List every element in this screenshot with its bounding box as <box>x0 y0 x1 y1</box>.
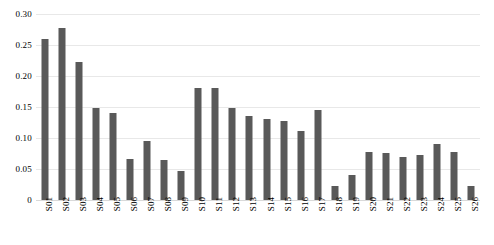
x-tick-slot: S13 <box>241 200 258 245</box>
x-axis: S01S02S03S04S05S06S07S08S09S10S11S12S13S… <box>36 200 480 245</box>
bar[interactable] <box>246 116 253 200</box>
bar-slot <box>104 14 121 200</box>
bar[interactable] <box>297 131 304 200</box>
bar-slot <box>395 14 412 200</box>
x-tick-slot: S23 <box>412 200 429 245</box>
x-tick-slot: S10 <box>190 200 207 245</box>
bar-chart: 00.050.100.150.200.250.30 S01S02S03S04S0… <box>0 0 494 245</box>
bar-slot <box>378 14 395 200</box>
bar-slot <box>36 14 53 200</box>
x-tick-slot: S21 <box>378 200 395 245</box>
bar[interactable] <box>58 28 65 200</box>
x-tick-slot: S17 <box>309 200 326 245</box>
bar-slot <box>138 14 155 200</box>
bar[interactable] <box>126 159 133 200</box>
x-tick-slot: S16 <box>292 200 309 245</box>
x-tick-slot: S15 <box>275 200 292 245</box>
x-tick-slot: S06 <box>121 200 138 245</box>
bar[interactable] <box>195 88 202 200</box>
bar[interactable] <box>383 153 390 200</box>
bar-slot <box>207 14 224 200</box>
y-tick-label: 0 <box>27 196 32 205</box>
bar[interactable] <box>109 113 116 200</box>
bar-slot <box>292 14 309 200</box>
plot-area <box>36 14 480 200</box>
bar[interactable] <box>229 108 236 200</box>
bar-slot <box>121 14 138 200</box>
x-tick-slot: S19 <box>343 200 360 245</box>
bar[interactable] <box>280 121 287 200</box>
bar[interactable] <box>434 144 441 200</box>
bar[interactable] <box>417 155 424 200</box>
x-tick-slot: S14 <box>258 200 275 245</box>
y-tick-label: 0.25 <box>15 41 32 50</box>
y-tick-label: 0.30 <box>15 10 32 19</box>
bar-slot <box>224 14 241 200</box>
bar[interactable] <box>161 160 168 200</box>
bar-slot <box>70 14 87 200</box>
bar-slot <box>360 14 377 200</box>
bars-layer <box>36 14 480 200</box>
bar-slot <box>241 14 258 200</box>
x-tick-slot: S01 <box>36 200 53 245</box>
bar[interactable] <box>451 152 458 200</box>
x-tick-slot: S07 <box>138 200 155 245</box>
x-tick-slot: S18 <box>326 200 343 245</box>
y-tick-label: 0.10 <box>15 134 32 143</box>
x-tick-slot: S20 <box>360 200 377 245</box>
bar-slot <box>173 14 190 200</box>
bar[interactable] <box>314 110 321 200</box>
bar-slot <box>463 14 480 200</box>
bar-slot <box>258 14 275 200</box>
bar-slot <box>446 14 463 200</box>
bar[interactable] <box>75 62 82 200</box>
bar-slot <box>53 14 70 200</box>
y-tick-label: 0.05 <box>15 165 32 174</box>
bar[interactable] <box>365 152 372 200</box>
x-tick-slot: S04 <box>87 200 104 245</box>
bar-slot <box>429 14 446 200</box>
y-tick-label: 0.15 <box>15 103 32 112</box>
x-tick-slot: S11 <box>207 200 224 245</box>
bar[interactable] <box>400 157 407 200</box>
x-tick-slot: S05 <box>104 200 121 245</box>
bar[interactable] <box>263 119 270 200</box>
x-tick-slot: S26 <box>463 200 480 245</box>
bar-slot <box>190 14 207 200</box>
bar-slot <box>87 14 104 200</box>
x-tick-slot: S03 <box>70 200 87 245</box>
bar[interactable] <box>212 88 219 200</box>
x-tick-slot: S22 <box>395 200 412 245</box>
bar-slot <box>275 14 292 200</box>
bar[interactable] <box>143 141 150 200</box>
x-tick-label: S26 <box>471 197 480 212</box>
bar-slot <box>412 14 429 200</box>
x-tick-slot: S08 <box>156 200 173 245</box>
bar-slot <box>156 14 173 200</box>
y-axis: 00.050.100.150.200.250.30 <box>0 0 34 245</box>
x-tick-slot: S09 <box>173 200 190 245</box>
y-tick-label: 0.20 <box>15 72 32 81</box>
x-tick-slot: S12 <box>224 200 241 245</box>
bar-slot <box>343 14 360 200</box>
x-tick-slot: S02 <box>53 200 70 245</box>
x-tick-slot: S24 <box>429 200 446 245</box>
bar[interactable] <box>92 108 99 200</box>
x-tick-slot: S25 <box>446 200 463 245</box>
bar-slot <box>326 14 343 200</box>
bar[interactable] <box>41 39 48 200</box>
bar-slot <box>309 14 326 200</box>
